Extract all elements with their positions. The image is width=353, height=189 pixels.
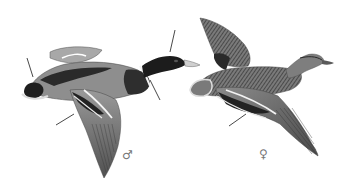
female-tail [190,79,212,96]
female-symbol: ♀ [259,148,268,160]
female-bill [322,60,334,65]
male-duck [22,47,200,178]
male-near-wing [70,89,121,178]
male-bill [184,60,200,67]
male-symbol: ♂ [122,149,133,161]
male-head [142,56,186,78]
female-near-wing [216,87,318,156]
mallard-illustration [0,0,353,189]
female-duck [190,18,334,156]
male-tail [24,82,43,98]
